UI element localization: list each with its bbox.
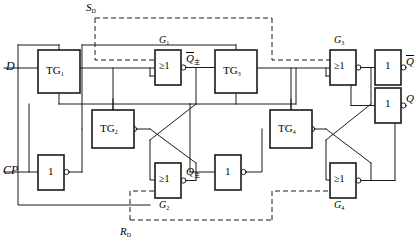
dashed-rd-to-g4 bbox=[272, 191, 330, 220]
symbol-g1: ≥1 bbox=[159, 61, 170, 71]
symbol-out-inverter-bottom: 1 bbox=[385, 98, 391, 109]
tag-g1: G1 bbox=[159, 35, 169, 46]
schematic-canvas bbox=[0, 0, 418, 247]
label-tg1: TG1 bbox=[46, 65, 64, 77]
label-d-input: D bbox=[6, 60, 15, 72]
wire-cross-b bbox=[150, 104, 196, 140]
symbol-g3: ≥1 bbox=[334, 61, 345, 71]
label-master-q-not: Q主 bbox=[186, 52, 200, 65]
dashed-sd-to-g3 bbox=[272, 18, 330, 60]
label-sd-input: SD bbox=[86, 2, 96, 14]
label-tg3: TG3 bbox=[223, 65, 241, 77]
tag-g4: G4 bbox=[334, 200, 344, 211]
label-cp-input: CP bbox=[3, 164, 18, 176]
symbol-g2: ≥1 bbox=[159, 174, 170, 184]
wire-cross-d bbox=[326, 104, 371, 140]
label-tg4: TG4 bbox=[278, 123, 296, 135]
dashed-sd-to-g1 bbox=[95, 18, 155, 60]
label-rd-input: RD bbox=[120, 226, 131, 238]
label-q-output: Q bbox=[406, 93, 414, 104]
symbol-out-inverter-top: 1 bbox=[385, 60, 391, 71]
symbol-mid-inverter: 1 bbox=[225, 166, 231, 177]
label-q-not-output: Q bbox=[406, 55, 414, 67]
symbol-g4: ≥1 bbox=[334, 174, 345, 184]
wire-mid-inv-out bbox=[246, 129, 262, 172]
symbol-clock-inverter: 1 bbox=[48, 166, 54, 177]
circuit-figure: D CP SD RD TG1 TG2 TG3 TG4 ≥1 ≥1 ≥1 ≥1 G… bbox=[0, 0, 418, 247]
label-master-q: Q主 bbox=[186, 166, 200, 178]
tag-g2: G2 bbox=[159, 200, 169, 211]
tag-g3: G3 bbox=[334, 35, 344, 46]
label-tg2: TG2 bbox=[100, 123, 118, 135]
